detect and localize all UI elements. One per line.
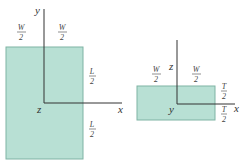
half-width-left-denominator: 2 xyxy=(154,75,158,84)
z-origin-label: z xyxy=(36,103,42,115)
half-width-right-numerator: W xyxy=(193,65,201,74)
left-view: y x z W 2 W 2 L 2 L 2 xyxy=(6,4,123,159)
half-thickness-upper-denominator: 2 xyxy=(222,92,226,101)
plate-dimension-diagram: y x z W 2 W 2 L 2 L 2 z x y W 2 W 2 xyxy=(0,0,247,166)
half-length-lower-numerator: L xyxy=(89,120,95,129)
half-width-left-numerator: W xyxy=(18,23,26,32)
y-axis-label: y xyxy=(34,4,40,16)
half-width-right-numerator: W xyxy=(59,23,67,32)
x-axis-label: x xyxy=(117,103,123,115)
half-length-lower-denominator: 2 xyxy=(90,130,94,139)
x-axis-label: x xyxy=(233,102,239,114)
right-view: z x y W 2 W 2 T 2 T 2 xyxy=(137,40,239,124)
half-width-right-denominator: 2 xyxy=(194,75,198,84)
half-length-upper-denominator: 2 xyxy=(90,77,94,86)
half-width-left-numerator: W xyxy=(153,65,161,74)
half-width-left-denominator: 2 xyxy=(19,33,23,42)
half-width-right-denominator: 2 xyxy=(60,33,64,42)
half-length-upper-numerator: L xyxy=(89,67,95,76)
z-axis-label: z xyxy=(168,60,174,72)
half-thickness-upper-numerator: T xyxy=(222,82,227,91)
half-thickness-lower-numerator: T xyxy=(222,105,227,114)
y-origin-label: y xyxy=(168,103,174,115)
half-thickness-lower-denominator: 2 xyxy=(222,115,226,124)
plate-rectangle-side xyxy=(137,86,215,120)
